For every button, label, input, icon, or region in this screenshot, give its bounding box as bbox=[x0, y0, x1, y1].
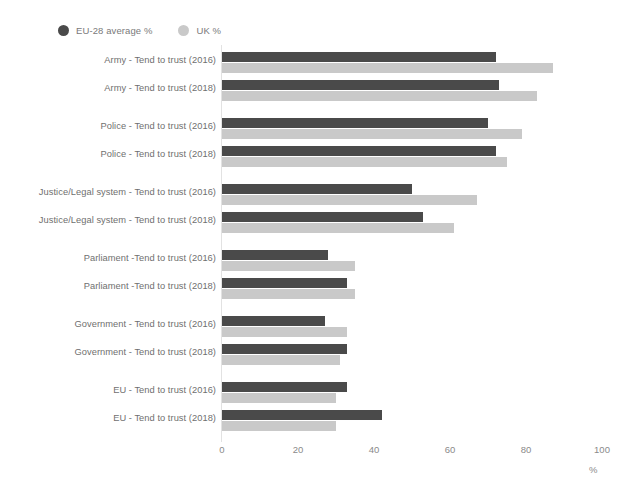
bar-pair bbox=[222, 211, 602, 235]
bar-uk bbox=[222, 393, 336, 403]
bar-uk bbox=[222, 157, 507, 167]
chart-legend: EU-28 average % UK % bbox=[58, 20, 221, 40]
bar-group: Government - Tend to trust (2016)Governm… bbox=[0, 313, 630, 369]
bar-uk bbox=[222, 129, 522, 139]
bar-row: Army - Tend to trust (2016) bbox=[0, 49, 630, 77]
bar-row: Government - Tend to trust (2018) bbox=[0, 341, 630, 369]
bar-row: EU - Tend to trust (2018) bbox=[0, 407, 630, 435]
bar-row: EU - Tend to trust (2016) bbox=[0, 379, 630, 407]
category-label: Government - Tend to trust (2018) bbox=[74, 347, 216, 357]
bar-pair bbox=[222, 343, 602, 367]
bar-row: Army - Tend to trust (2018) bbox=[0, 77, 630, 105]
category-label: Police - Tend to trust (2016) bbox=[101, 121, 216, 131]
bar-row: Justice/Legal system - Tend to trust (20… bbox=[0, 181, 630, 209]
bar-row: Police - Tend to trust (2016) bbox=[0, 115, 630, 143]
bar-eu28 bbox=[222, 410, 382, 420]
bar-pair bbox=[222, 51, 602, 75]
bar-pair bbox=[222, 79, 602, 103]
x-axis-tick-label: 20 bbox=[293, 444, 304, 455]
bar-group: EU - Tend to trust (2016)EU - Tend to tr… bbox=[0, 379, 630, 435]
category-label: EU - Tend to trust (2016) bbox=[113, 385, 216, 395]
bar-group: Parliament -Tend to trust (2016)Parliame… bbox=[0, 247, 630, 303]
legend-label-eu28: EU-28 average % bbox=[76, 25, 152, 36]
bar-row: Government - Tend to trust (2016) bbox=[0, 313, 630, 341]
category-label: Army - Tend to trust (2016) bbox=[104, 55, 216, 65]
x-axis-tick-label: 60 bbox=[445, 444, 456, 455]
circle-marker-icon bbox=[58, 25, 69, 36]
bar-eu28 bbox=[222, 52, 496, 62]
bar-pair bbox=[222, 249, 602, 273]
bar-group: Justice/Legal system - Tend to trust (20… bbox=[0, 181, 630, 237]
bar-uk bbox=[222, 289, 355, 299]
legend-item-uk: UK % bbox=[178, 25, 221, 36]
bar-uk bbox=[222, 261, 355, 271]
bar-pair bbox=[222, 117, 602, 141]
bar-eu28 bbox=[222, 80, 499, 90]
bar-uk bbox=[222, 223, 454, 233]
category-label: EU - Tend to trust (2018) bbox=[113, 413, 216, 423]
legend-label-uk: UK % bbox=[196, 25, 221, 36]
category-label: Parliament -Tend to trust (2016) bbox=[84, 253, 216, 263]
x-axis-tick-label: 40 bbox=[369, 444, 380, 455]
bar-row: Parliament -Tend to trust (2018) bbox=[0, 275, 630, 303]
bar-eu28 bbox=[222, 118, 488, 128]
bar-eu28 bbox=[222, 250, 328, 260]
bar-row: Justice/Legal system - Tend to trust (20… bbox=[0, 209, 630, 237]
category-label: Police - Tend to trust (2018) bbox=[101, 149, 216, 159]
bar-eu28 bbox=[222, 316, 325, 326]
bar-row: Police - Tend to trust (2018) bbox=[0, 143, 630, 171]
x-axis-tick-label: 100 bbox=[594, 444, 610, 455]
category-label: Parliament -Tend to trust (2018) bbox=[84, 281, 216, 291]
circle-marker-icon bbox=[178, 25, 189, 36]
bar-eu28 bbox=[222, 382, 347, 392]
bar-row: Parliament -Tend to trust (2016) bbox=[0, 247, 630, 275]
bar-eu28 bbox=[222, 212, 423, 222]
bar-uk bbox=[222, 91, 537, 101]
bar-pair bbox=[222, 183, 602, 207]
bar-eu28 bbox=[222, 184, 412, 194]
legend-item-eu28: EU-28 average % bbox=[58, 25, 152, 36]
category-label: Army - Tend to trust (2018) bbox=[104, 83, 216, 93]
bar-pair bbox=[222, 409, 602, 433]
bar-eu28 bbox=[222, 146, 496, 156]
bar-eu28 bbox=[222, 344, 347, 354]
bar-uk bbox=[222, 63, 553, 73]
bar-pair bbox=[222, 315, 602, 339]
bar-pair bbox=[222, 277, 602, 301]
bar-uk bbox=[222, 195, 477, 205]
bar-pair bbox=[222, 381, 602, 405]
bar-eu28 bbox=[222, 278, 347, 288]
bar-uk bbox=[222, 327, 347, 337]
category-label: Government - Tend to trust (2016) bbox=[74, 319, 216, 329]
bar-uk bbox=[222, 355, 340, 365]
category-label: Justice/Legal system - Tend to trust (20… bbox=[39, 215, 216, 225]
bar-uk bbox=[222, 421, 336, 431]
bar-pair bbox=[222, 145, 602, 169]
bar-group: Army - Tend to trust (2016)Army - Tend t… bbox=[0, 49, 630, 105]
x-axis-unit-label: % bbox=[589, 464, 597, 475]
x-axis-tick-label: 0 bbox=[219, 444, 224, 455]
bar-group: Police - Tend to trust (2016)Police - Te… bbox=[0, 115, 630, 171]
x-axis-ticks: 020406080100 bbox=[0, 444, 630, 464]
category-label: Justice/Legal system - Tend to trust (20… bbox=[39, 187, 216, 197]
x-axis-tick-label: 80 bbox=[521, 444, 532, 455]
bar-chart-plot-area: Army - Tend to trust (2016)Army - Tend t… bbox=[0, 45, 630, 445]
